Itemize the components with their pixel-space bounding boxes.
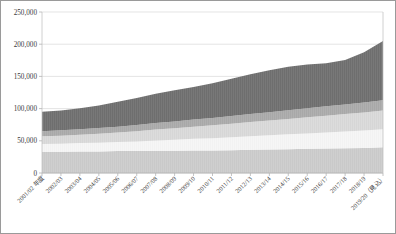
- y-tick-label: 50,000: [17, 137, 37, 145]
- x-tick-label: 2019/20（見込）: [348, 174, 386, 212]
- x-tick-label: 2004/05: [82, 175, 102, 195]
- x-tick-label: 2009/10: [177, 175, 197, 195]
- x-tick-label: 2013/14: [252, 174, 272, 194]
- x-tick-label: 2017/18: [328, 175, 348, 195]
- x-axis-ticks: 2001/02 年度2002/032003/042004/052005/0620…: [15, 173, 387, 212]
- y-tick-label: 100,000: [14, 105, 38, 113]
- x-tick-label: 2014/15: [271, 175, 291, 195]
- y-tick-label: 200,000: [14, 41, 38, 49]
- x-tick-label: 2015/16: [290, 175, 310, 195]
- x-tick-label: 2010/11: [196, 175, 215, 194]
- x-tick-label: 2006/07: [120, 175, 140, 195]
- x-tick-label: 2016/17: [309, 175, 329, 195]
- y-tick-label: 250,000: [14, 9, 38, 17]
- y-tick-label: 150,000: [14, 73, 38, 81]
- x-tick-label: 2012/13: [234, 175, 254, 195]
- y-axis-ticks: 050,000100,000150,000200,000250,000: [14, 9, 42, 178]
- chart-frame: 050,000100,000150,000200,000250,000 2001…: [0, 0, 396, 234]
- x-tick-label: 2007/08: [139, 175, 159, 195]
- x-tick-label: 2005/06: [101, 175, 121, 195]
- x-tick-label: 2002/03: [44, 175, 64, 195]
- x-tick-label: 2011/12: [215, 175, 234, 194]
- x-tick-label: 2008/09: [158, 175, 178, 195]
- x-tick-label: 2003/04: [63, 174, 83, 194]
- x-tick-label: 2001/02 年度: [15, 173, 46, 204]
- stacked-area-chart: 050,000100,000150,000200,000250,000 2001…: [1, 1, 396, 234]
